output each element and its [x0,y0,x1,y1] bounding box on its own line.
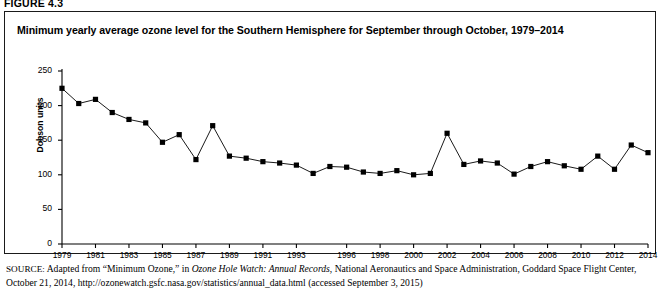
data-point-marker [294,163,299,168]
y-tick-label: 200 [22,100,52,110]
data-point-marker [595,154,600,159]
y-tick-label: 0 [22,238,52,248]
data-point-marker [394,168,399,173]
data-point-marker [444,131,449,136]
data-point-marker [327,164,332,169]
data-point-marker [126,117,131,122]
data-point-marker [361,169,366,174]
source-text-part1: Adapted from “Minimum Ozone,” in [45,263,192,274]
data-line [62,88,648,175]
figure-label: FIGURE 4.3 [4,0,63,9]
source-prefix: SOURCE: [6,264,45,274]
data-point-marker [478,158,483,163]
y-tick-label: 50 [22,203,52,213]
source-note: SOURCE: Adapted from “Minimum Ozone,” in… [6,262,658,289]
data-point-marker [311,171,316,176]
data-point-marker [93,97,98,102]
data-point-marker [277,160,282,165]
data-point-marker [193,157,198,162]
data-point-marker [76,101,81,106]
data-point-marker [528,164,533,169]
data-point-marker [495,160,500,165]
figure-box: Minimum yearly average ozone level for t… [4,11,656,254]
y-tick-label: 150 [22,134,52,144]
data-point-marker [411,172,416,177]
data-point-marker [143,120,148,125]
data-point-marker [177,132,182,137]
data-point-marker [578,167,583,172]
chart-plot-area: Dobson units 050100150200250197919811983… [5,12,657,255]
source-italic-title: Ozone Hole Watch: Annual Records [192,263,330,274]
data-point-marker [612,167,617,172]
data-point-marker [59,86,64,91]
data-point-marker [562,163,567,168]
data-point-marker [344,165,349,170]
data-point-marker [210,123,215,128]
y-tick-label: 250 [22,65,52,75]
data-point-marker [645,150,650,155]
data-point-marker [244,156,249,161]
data-point-marker [227,154,232,159]
x-tick-label: 1993 [276,250,316,260]
data-point-marker [461,162,466,167]
data-point-marker [260,159,265,164]
ozone-line-chart [5,12,657,255]
data-point-marker [110,110,115,115]
data-point-marker [545,159,550,164]
data-point-marker [428,171,433,176]
data-point-marker [160,140,165,145]
data-point-marker [511,172,516,177]
y-tick-label: 100 [22,169,52,179]
x-tick-label: 2014 [628,250,663,260]
data-point-marker [378,171,383,176]
data-point-marker [629,142,634,147]
